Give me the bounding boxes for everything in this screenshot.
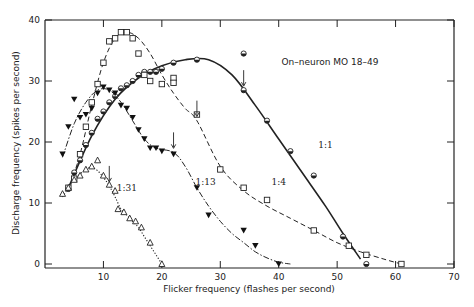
- data-point-1-13: [205, 213, 211, 219]
- data-point-1-4: [147, 78, 152, 83]
- x-axis-title: Flicker frequency (flashes per second): [163, 284, 335, 294]
- data-point-1-4: [364, 252, 369, 257]
- data-point-1-31: [138, 224, 144, 230]
- data-point-1-31: [100, 172, 106, 178]
- data-point-1-13: [77, 115, 83, 121]
- data-point-1-4: [142, 72, 147, 77]
- data-point-1-1: [107, 100, 112, 105]
- x-tick-label: 20: [156, 272, 168, 282]
- data-point-1-13: [118, 103, 124, 109]
- data-point-1-4: [159, 81, 164, 86]
- data-point-1-1: [194, 57, 199, 62]
- data-point-1-31: [133, 218, 139, 224]
- data-point-1-13: [124, 106, 130, 112]
- data-point-1-1: [241, 51, 246, 56]
- data-point-1-4: [241, 185, 246, 190]
- data-point-1-31: [121, 209, 127, 215]
- data-point-1-4: [89, 100, 94, 105]
- chart-annotation-title: On–neuron MO 18–49: [282, 57, 379, 67]
- y-tick-label: 40: [29, 15, 41, 25]
- data-point-1-13: [135, 127, 141, 133]
- data-point-1-13: [65, 124, 71, 130]
- data-point-1-1: [364, 261, 369, 266]
- data-point-1-1: [101, 109, 106, 114]
- data-point-1-31: [83, 166, 89, 172]
- data-point-1-13: [147, 146, 153, 152]
- data-point-1-1: [311, 173, 316, 178]
- data-point-1-1: [77, 158, 82, 163]
- data-point-1-1: [118, 86, 123, 91]
- data-point-1-4: [107, 39, 112, 44]
- data-point-1-4: [136, 51, 141, 56]
- x-tick-label: 40: [273, 272, 285, 282]
- data-point-1-13: [59, 152, 65, 158]
- series-line-1-13: [63, 89, 291, 264]
- y-tick-label: 0: [34, 259, 40, 269]
- data-point-1-13: [153, 146, 159, 152]
- data-point-1-1: [264, 118, 269, 123]
- data-point-1-1: [124, 83, 129, 88]
- data-point-1-1: [83, 142, 88, 147]
- data-point-1-13: [106, 88, 112, 94]
- x-tick-label: 60: [390, 272, 402, 282]
- x-tick-label: 10: [98, 272, 110, 282]
- arrow-marker-1-4: [195, 101, 199, 117]
- data-point-1-1: [148, 69, 153, 74]
- arrow-marker-1-31: [107, 166, 111, 182]
- data-point-1-4: [83, 124, 88, 129]
- data-point-1-1: [241, 88, 246, 93]
- data-point-1-13: [94, 91, 100, 97]
- data-point-1-4: [77, 152, 82, 157]
- x-tick-label: 50: [331, 272, 343, 282]
- arrow-marker-1-13: [171, 132, 175, 148]
- data-point-1-13: [276, 261, 282, 267]
- data-point-1-13: [159, 149, 165, 155]
- data-point-1-1: [171, 60, 176, 65]
- data-point-1-1: [159, 66, 164, 71]
- data-point-1-31: [77, 172, 83, 178]
- y-tick-label: 20: [29, 137, 41, 147]
- data-point-1-4: [346, 243, 351, 248]
- data-point-1-4: [112, 36, 117, 41]
- series-label-1-31: 1:31: [117, 183, 137, 193]
- data-point-1-4: [95, 81, 100, 86]
- data-point-1-1: [153, 69, 158, 74]
- y-tick-label: 10: [29, 198, 41, 208]
- data-point-1-31: [115, 206, 121, 212]
- series-label-1-1: 1:1: [318, 140, 332, 150]
- data-point-1-4: [130, 36, 135, 41]
- data-point-1-13: [83, 112, 89, 118]
- data-point-1-4: [311, 228, 316, 233]
- data-point-1-4: [101, 60, 106, 65]
- data-point-1-1: [136, 72, 141, 77]
- chart: 10203040506070010203040 On–neuron MO 18–…: [0, 0, 474, 307]
- x-tick-label: 30: [215, 272, 227, 282]
- data-point-1-13: [240, 228, 246, 234]
- data-point-1-1: [130, 78, 135, 83]
- data-point-1-4: [399, 261, 404, 266]
- data-point-1-31: [147, 239, 153, 245]
- data-point-1-1: [340, 234, 345, 239]
- data-point-1-31: [127, 215, 133, 221]
- data-point-1-4: [264, 197, 269, 202]
- data-point-1-1: [95, 116, 100, 121]
- data-point-1-4: [218, 167, 223, 172]
- data-point-1-13: [89, 106, 95, 112]
- data-point-1-13: [252, 243, 258, 249]
- data-point-1-31: [89, 163, 95, 169]
- data-point-1-13: [71, 97, 77, 103]
- data-point-1-31: [95, 157, 101, 163]
- data-point-1-1: [288, 149, 293, 154]
- data-point-1-1: [89, 130, 94, 135]
- arrow-marker-1-1: [241, 70, 245, 86]
- data-point-1-4: [171, 80, 176, 85]
- series-label-1-4: 1:4: [271, 177, 286, 187]
- x-tick-label: 70: [448, 272, 460, 282]
- y-tick-label: 30: [29, 76, 41, 86]
- data-point-1-4: [118, 30, 123, 35]
- series-label-1-13: 1:13: [196, 177, 216, 187]
- data-point-1-4: [124, 30, 129, 35]
- data-point-1-1: [72, 170, 77, 175]
- y-axis-title: Discharge frequency (spikes per second): [11, 51, 21, 235]
